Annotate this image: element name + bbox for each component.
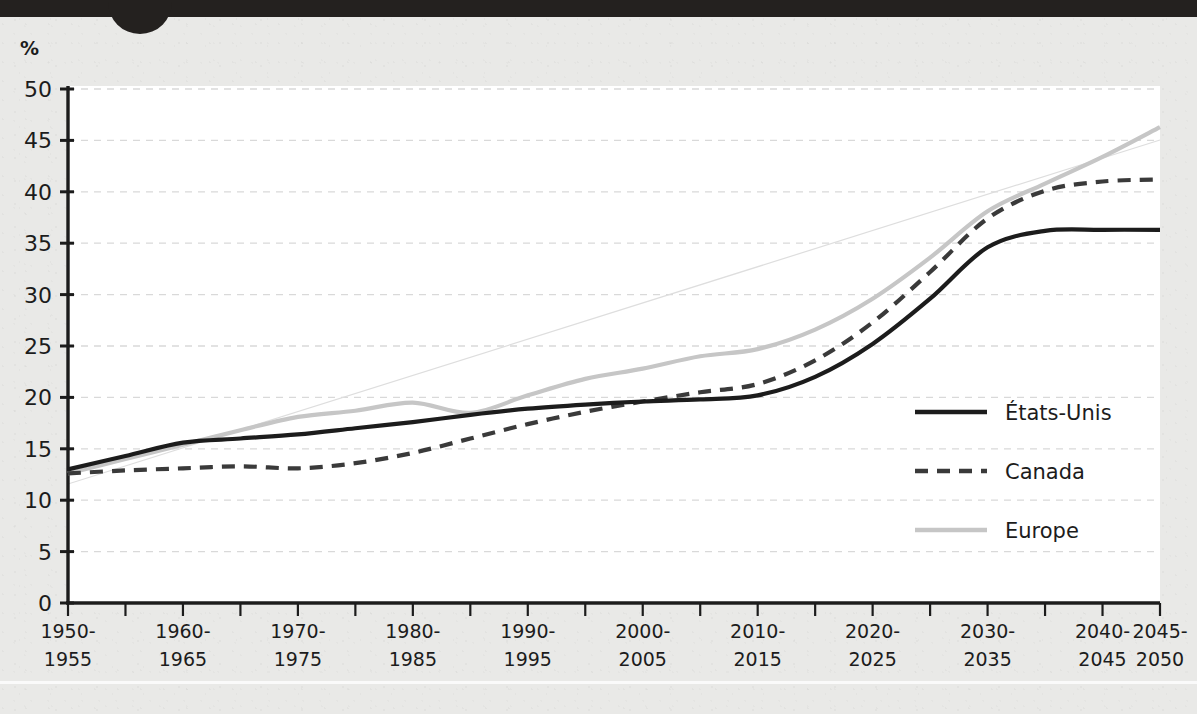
top-dark-band	[0, 0, 1197, 17]
y-axis-tick-label: 25	[24, 334, 52, 359]
x-axis-tick-label-line2: 2005	[619, 648, 667, 670]
x-axis-tick-label-line2: 2045	[1078, 648, 1126, 670]
x-axis-tick-label-line2: 2025	[848, 648, 896, 670]
legend-label-canada: Canada	[1005, 460, 1085, 484]
chart-page: 05101520253035404550 1950-19551960-19651…	[0, 0, 1197, 714]
y-axis-tick-label: 5	[38, 540, 52, 565]
y-axis-tick-label: 50	[24, 77, 52, 102]
x-axis-tick-label-line2: 2050	[1136, 648, 1184, 670]
x-axis-tick-label-line1: 2045-	[1132, 620, 1187, 642]
y-axis-tick-label: 35	[24, 231, 52, 256]
x-axis-tick-label-line1: 1980-	[385, 620, 440, 642]
x-axis-tick-label-line1: 2000-	[615, 620, 670, 642]
y-axis-unit-label: %	[20, 37, 39, 59]
x-axis-tick-label-line2: 2015	[734, 648, 782, 670]
y-axis-tick-label: 20	[24, 385, 52, 410]
y-axis-tick-label: 40	[24, 180, 52, 205]
x-axis-tick-labels: 1950-19551960-19651970-19751980-19851990…	[40, 620, 1187, 670]
y-axis-tick-label: 10	[24, 488, 52, 513]
legend-label-europe: Europe	[1005, 519, 1079, 543]
x-axis-tick-label-line1: 2030-	[960, 620, 1015, 642]
x-axis-tick-label-line1: 2020-	[845, 620, 900, 642]
x-axis-tick-label-line1: 1950-	[40, 620, 95, 642]
x-axis-tick-label-line2: 1965	[159, 648, 207, 670]
y-axis-tick-label: 0	[38, 591, 52, 616]
y-axis-tick-label: 30	[24, 283, 52, 308]
x-axis-tick-label-line2: 2035	[963, 648, 1011, 670]
line-chart: 05101520253035404550 1950-19551960-19651…	[0, 0, 1197, 714]
y-axis-tick-labels: 05101520253035404550	[24, 77, 52, 616]
x-axis-tick-label-line1: 2040-	[1075, 620, 1130, 642]
legend-label--tats-unis: États-Unis	[1005, 400, 1112, 425]
bottom-divider-rule	[0, 681, 1197, 684]
y-axis-tick-label: 45	[24, 128, 52, 153]
x-axis-tick-label-line1: 1960-	[155, 620, 210, 642]
x-axis-tick-label-line2: 1955	[44, 648, 92, 670]
x-axis-tick-label-line1: 1990-	[500, 620, 555, 642]
x-axis-tick-label-line2: 1985	[389, 648, 437, 670]
x-axis-tick-label-line2: 1975	[274, 648, 322, 670]
y-axis-tick-label: 15	[24, 437, 52, 462]
x-axis-tick-label-line1: 1970-	[270, 620, 325, 642]
x-axis-tick-label-line2: 1995	[504, 648, 552, 670]
x-axis-tick-label-line1: 2010-	[730, 620, 785, 642]
